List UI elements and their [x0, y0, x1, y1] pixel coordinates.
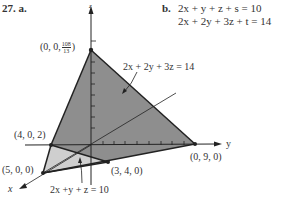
y-axis-label: y	[226, 139, 231, 149]
plane2-label: 2x +y + z = 10	[50, 185, 109, 195]
point-5-0-0-label: (5, 0, 0)	[2, 165, 34, 175]
y-axis-arrow	[214, 142, 222, 147]
equation-b1: 2x + y + z + s = 10	[178, 3, 261, 14]
equation-b2: 2x + 2y + 3z + t = 14	[178, 16, 271, 27]
point-4-0-2-label: (4, 0, 2)	[14, 130, 46, 140]
x-axis-arrow	[19, 183, 27, 189]
point-0-9-0-label: (0, 9, 0)	[190, 152, 222, 162]
3d-diagram	[0, 0, 297, 199]
point-3-4-0-label: (3, 4, 0)	[111, 166, 143, 176]
x-axis-label: x	[8, 184, 12, 194]
part-b-label: b.	[162, 3, 171, 14]
problem-number: 27. a.	[2, 3, 27, 14]
z-axis-label: z	[89, 3, 92, 10]
plane1-label: 2x + 2y + 3z = 14	[123, 62, 194, 72]
apex-point-label: (0, 0,10813)	[40, 41, 75, 54]
